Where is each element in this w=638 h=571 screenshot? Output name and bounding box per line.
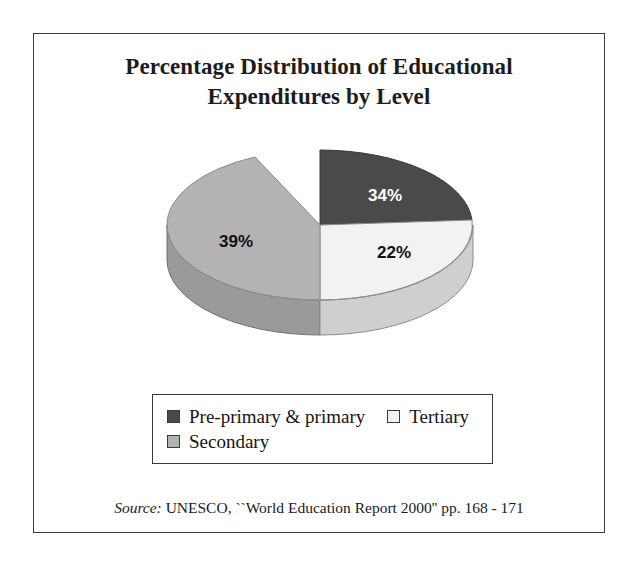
pie-value-label-secondary: 39% (219, 232, 253, 251)
source-note: Source: UNESCO, ``World Education Report… (33, 499, 605, 517)
legend-label-secondary: Secondary (189, 432, 269, 451)
legend-row-1: Pre-primary & primary Tertiary (167, 404, 485, 429)
pie-value-label-pre-primary: 34% (368, 186, 402, 205)
legend-label-tertiary: Tertiary (409, 407, 469, 426)
chart-title-line-1: Percentage Distribution of Educational (33, 52, 605, 82)
legend-items: Pre-primary & primary Tertiary Secondary (167, 404, 485, 454)
legend-item-secondary: Secondary (167, 432, 269, 451)
legend-label-pre-primary: Pre-primary & primary (189, 407, 365, 426)
pie-value-label-tertiary: 22% (377, 243, 411, 262)
legend-row-2: Secondary (167, 429, 485, 454)
source-text: UNESCO, ``World Education Report 2000'' … (162, 499, 524, 516)
chart-title-line-2: Expenditures by Level (33, 82, 605, 112)
chart-title: Percentage Distribution of Educational E… (33, 52, 605, 112)
legend-item-pre-primary: Pre-primary & primary (167, 407, 365, 426)
legend-swatch-icon-secondary (167, 435, 180, 448)
legend-item-tertiary: Tertiary (387, 407, 469, 426)
figure-page: Percentage Distribution of Educational E… (0, 0, 638, 571)
legend-swatch-icon-tertiary (387, 410, 400, 423)
source-label: Source: (114, 499, 162, 516)
pie-chart: 34% 22% 39% (150, 142, 490, 357)
legend: Pre-primary & primary Tertiary Secondary (152, 394, 493, 464)
legend-swatch-icon-pre-primary (167, 410, 180, 423)
pie-chart-svg: 34% 22% 39% (150, 142, 490, 357)
